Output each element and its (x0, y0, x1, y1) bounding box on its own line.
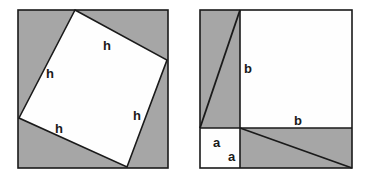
label-a-upper: a (213, 135, 221, 150)
right-b-square (240, 10, 352, 128)
diagram-canvas: RAS' PYTH M h h h h (0, 0, 370, 179)
label-h-top: h (103, 38, 111, 53)
pythagorean-figure: RAS' PYTH M h h h h (0, 0, 370, 179)
label-h-left: h (46, 66, 54, 81)
label-b-horizontal: b (294, 113, 302, 128)
left-panel: h h h h (18, 10, 168, 168)
right-panel: b b a a (200, 10, 352, 168)
label-a-lower: a (228, 149, 236, 164)
label-h-right: h (133, 108, 141, 123)
label-b-vertical: b (244, 61, 252, 76)
label-h-bottom: h (55, 121, 63, 136)
